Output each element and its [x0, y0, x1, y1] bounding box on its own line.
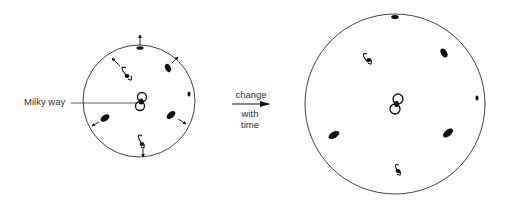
- galaxy-spiral: [395, 164, 400, 175]
- galaxy-elliptical: [164, 63, 173, 73]
- milky-way-galaxy: [390, 94, 403, 114]
- galaxy-elliptical: [439, 47, 449, 58]
- galaxy-small: [188, 92, 191, 97]
- universe-before: [71, 35, 195, 157]
- milky-way-label: Milky way: [24, 96, 65, 107]
- galaxy-spiral: [363, 53, 371, 64]
- galaxy-spiral: [122, 67, 132, 80]
- arrow-label-with: with: [230, 108, 270, 119]
- galaxy-small: [475, 95, 478, 100]
- galaxy-elliptical: [391, 15, 399, 19]
- galaxy-elliptical: [165, 109, 177, 120]
- expanding-universe-diagram: [0, 0, 509, 209]
- galaxy-elliptical: [99, 113, 111, 124]
- galaxy-elliptical: [327, 129, 341, 141]
- arrow-label-time: time: [230, 119, 270, 130]
- recession-arrow-icon: [112, 58, 120, 66]
- arrow-label-top: change: [231, 89, 271, 100]
- galaxy-elliptical: [137, 46, 144, 50]
- galaxy-elliptical: [441, 127, 454, 140]
- recession-arrow-icon: [178, 119, 186, 124]
- recession-arrow-icon: [92, 122, 99, 126]
- galaxy-spiral: [138, 135, 144, 148]
- universe-after: [305, 14, 485, 194]
- milky-way-galaxy: [136, 93, 147, 111]
